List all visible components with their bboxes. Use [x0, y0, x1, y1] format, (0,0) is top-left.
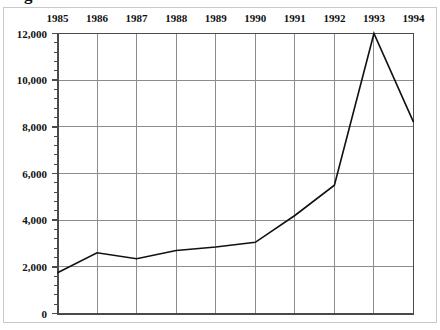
data-series-line: [58, 34, 414, 273]
series-line-path: [58, 34, 414, 273]
chart-figure: Figure 198519861987198819891990199119921…: [0, 0, 440, 330]
gridlines-horizontal: [58, 80, 414, 267]
plot-area: [0, 0, 440, 330]
